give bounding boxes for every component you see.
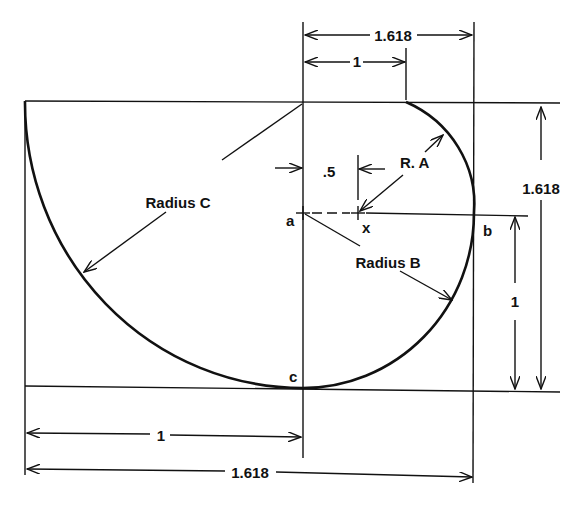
construction-lines bbox=[25, 22, 560, 483]
point-a-label: a bbox=[286, 212, 295, 229]
point-a-marker bbox=[296, 206, 310, 220]
point-x-label: x bbox=[362, 219, 371, 236]
right-inner-dim-label: 1 bbox=[511, 293, 519, 310]
top-inner-dim-label: 1 bbox=[353, 53, 361, 70]
top-outer-dim-label: 1.618 bbox=[374, 27, 412, 44]
right-vertical-line bbox=[473, 22, 474, 483]
b-line bbox=[366, 213, 528, 216]
radius-a-leader-up bbox=[425, 135, 443, 152]
radius-a-leader-down bbox=[360, 175, 403, 211]
radius-a-label: R. A bbox=[400, 154, 430, 171]
arc-b bbox=[303, 213, 474, 388]
point-c-label: c bbox=[289, 368, 297, 385]
half-dim-label: .5 bbox=[323, 163, 336, 180]
radius-b-label: Radius B bbox=[355, 254, 420, 271]
radius-c-leader-1 bbox=[222, 104, 302, 160]
right-outer-dim-label: 1.618 bbox=[522, 180, 560, 197]
radius-c-label: Radius C bbox=[145, 194, 210, 211]
golden-spiral-diagram: a x b c 1.618 1 .5 R. A Radius B Radius … bbox=[0, 0, 585, 509]
radius-b-leader-1 bbox=[305, 214, 360, 246]
bottom-outer-dim-label: 1.618 bbox=[231, 464, 269, 481]
radius-c-leader-2 bbox=[84, 212, 166, 272]
point-b-label: b bbox=[483, 222, 492, 239]
spiral-curve bbox=[25, 101, 474, 388]
arc-c bbox=[25, 101, 303, 388]
radius-b-leader-2 bbox=[400, 271, 452, 300]
top-line bbox=[25, 101, 560, 103]
bottom-inner-dim-label: 1 bbox=[157, 427, 165, 444]
